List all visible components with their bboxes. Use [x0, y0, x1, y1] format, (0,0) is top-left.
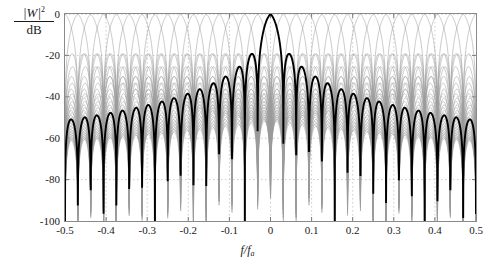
x-tick-label: 0.4 [428, 225, 442, 236]
x-tick-label: 0.5 [469, 225, 483, 236]
x-tick-label: -0.4 [97, 225, 114, 236]
x-tick-label: 0 [268, 225, 274, 236]
x-tick-label: 0.2 [346, 225, 360, 236]
y-tick-label: -80 [24, 174, 60, 185]
y-tick-label: -60 [24, 133, 60, 144]
x-tick-label: -0.5 [56, 225, 73, 236]
y-tick-label: -100 [24, 216, 60, 227]
x-tick-label: -0.3 [138, 225, 155, 236]
y-tick-label: -20 [24, 50, 60, 61]
x-axis-label: f/fa [0, 243, 495, 258]
x-tick-label: 0.3 [387, 225, 401, 236]
plot-area [64, 13, 477, 222]
x-axis-ticks: -0.5-0.4-0.3-0.2-0.100.10.20.30.40.5 [64, 224, 477, 240]
x-tick-label: -0.1 [221, 225, 238, 236]
y-tick-label: -40 [24, 91, 60, 102]
x-tick-label: -0.2 [180, 225, 197, 236]
y-axis-ticks: 0-20-40-60-80-100 [20, 13, 60, 222]
chart-figure: |W|2 dB 0-20-40-60-80-100 -0.5-0.4-0.3-0… [0, 0, 495, 268]
x-tick-label: 0.1 [305, 225, 319, 236]
y-tick-label: 0 [24, 9, 60, 20]
x-axis-label-text: f/f [240, 243, 250, 257]
response-curves [65, 14, 476, 221]
x-axis-label-subscript: a [251, 249, 255, 258]
